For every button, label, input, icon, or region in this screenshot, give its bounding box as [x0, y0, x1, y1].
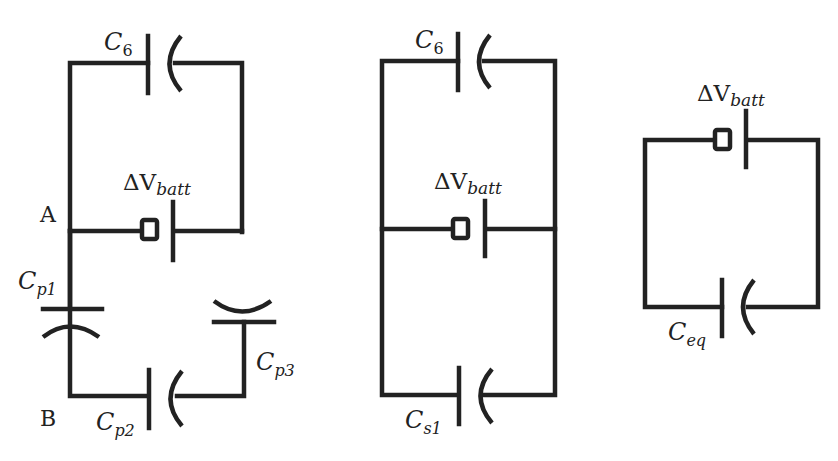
capacitor-label-ceq: Ceq [668, 318, 706, 350]
node-label-a: A [39, 202, 57, 227]
capacitor-label-cs1: Cs1 [405, 406, 442, 438]
capacitor-cp3-symbol [214, 301, 274, 322]
capacitor-label-c6: C6 [415, 26, 444, 58]
node-label-b: B [40, 406, 56, 431]
circuit-diagram: C6 ΔVbatt A Cp1 B Cp3 Cp2 [0, 0, 838, 461]
circuit-3-right-wire [748, 140, 818, 307]
circuit-1: C6 ΔVbatt A Cp1 B Cp3 Cp2 [18, 28, 295, 440]
battery-positive-terminal-icon [715, 130, 730, 149]
circuit-1-cp3-bottom-wire [177, 322, 244, 396]
capacitor-label-cp1: Cp1 [18, 267, 57, 299]
capacitor-label-c6: C6 [104, 28, 133, 60]
circuit-1-top-right-wire [175, 63, 242, 232]
battery-label: ΔVbatt [434, 168, 502, 198]
capacitor-cp1-symbol [43, 309, 102, 337]
battery-label: ΔVbatt [123, 169, 191, 199]
circuit-2: C6 ΔVbatt Cs1 [382, 26, 555, 438]
circuit-3-left-wire [645, 140, 722, 307]
capacitor-label-cp2: Cp2 [96, 408, 135, 440]
capacitor-cp2-symbol [149, 370, 182, 428]
battery-positive-terminal-icon [142, 220, 157, 239]
circuit-3: ΔVbatt Ceq [645, 80, 818, 350]
battery-label: ΔVbatt [697, 80, 765, 110]
capacitor-label-cp3: Cp3 [256, 348, 295, 380]
battery-positive-terminal-icon [453, 219, 468, 238]
